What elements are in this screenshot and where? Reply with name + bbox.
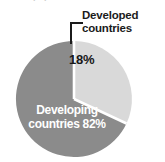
leader-vertical-segment [70, 22, 72, 44]
developed-countries-callout-label: Developed countries [82, 9, 164, 34]
developing-countries-slice-label: Developing countries 82% [10, 104, 124, 131]
developing-label-line-2: countries 82% [10, 118, 124, 132]
developed-countries-value-label: 18% [69, 52, 94, 67]
developing-label-line-1: Developing [10, 104, 124, 118]
callout-line-2: countries [82, 22, 164, 35]
pie-chart-figure: population Developed countries 18% Devel… [0, 0, 165, 162]
callout-line-1: Developed [82, 9, 164, 22]
